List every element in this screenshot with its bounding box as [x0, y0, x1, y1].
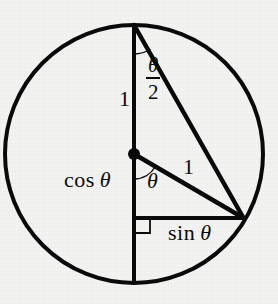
cos-function-name: cos	[64, 167, 95, 192]
theta-half-numerator: θ	[146, 54, 160, 77]
figure-canvas: θ 2 1 1 cosθ θ sinθ	[0, 0, 278, 304]
cos-theta-symbol: θ	[100, 167, 111, 192]
label-one-vertical-radius: 1	[119, 88, 130, 110]
right-angle-marker-icon	[136, 219, 150, 233]
label-cos-theta: cosθ	[64, 169, 111, 191]
fraction-bar	[146, 77, 160, 79]
circle-center-dot	[128, 148, 140, 160]
label-theta-central-angle: θ	[147, 170, 158, 192]
label-sin-theta: sinθ	[168, 222, 211, 244]
unit-circle-diagram	[0, 0, 278, 304]
sin-theta-symbol: θ	[200, 220, 211, 245]
sin-function-name: sin	[168, 220, 195, 245]
theta-half-denominator: 2	[146, 80, 160, 103]
label-one-slant-radius: 1	[183, 156, 194, 178]
label-theta-over-two: θ 2	[146, 54, 160, 103]
